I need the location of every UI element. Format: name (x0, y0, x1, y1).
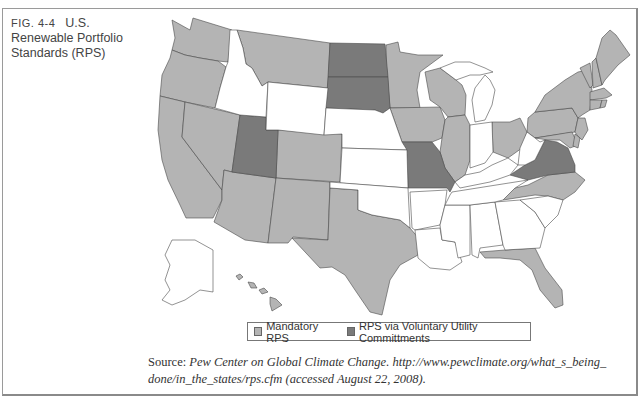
state-MA (590, 88, 612, 100)
source-text-line1: Pew Center on Global Climate Change. htt… (189, 355, 606, 369)
state-FL (480, 248, 563, 308)
legend-label-mandatory: Mandatory RPS (266, 320, 335, 344)
source-text-line2: done/in_the_states/rps.cfm (accessed Aug… (148, 372, 426, 386)
state-CT (590, 100, 602, 110)
state-AK (162, 240, 213, 305)
legend-item-voluntary: RPS via Voluntary Utility Committments (347, 320, 530, 344)
state-MI (472, 75, 495, 122)
state-HI-3 (259, 288, 268, 294)
state-IN (470, 122, 493, 168)
state-NM (268, 178, 330, 243)
legend-label-voluntary: RPS via Voluntary Utility Committments (359, 320, 530, 344)
map-legend: Mandatory RPS RPS via Voluntary Utility … (247, 322, 531, 341)
state-ME (596, 30, 630, 85)
state-ND (328, 43, 388, 77)
legend-swatch-voluntary (347, 327, 355, 336)
legend-item-mandatory: Mandatory RPS (254, 320, 335, 344)
state-KS (340, 148, 408, 188)
legend-swatch-mandatory (254, 327, 262, 336)
source-prefix: Source: (148, 355, 189, 369)
state-HI-2 (248, 282, 257, 288)
state-HI-1 (236, 274, 243, 280)
state-HI-4 (270, 297, 282, 311)
state-AZ (214, 170, 276, 243)
source-citation: Source: Pew Center on Global Climate Cha… (148, 354, 606, 388)
state-CO (276, 130, 342, 182)
state-WY (266, 82, 328, 135)
state-SD (326, 77, 390, 113)
